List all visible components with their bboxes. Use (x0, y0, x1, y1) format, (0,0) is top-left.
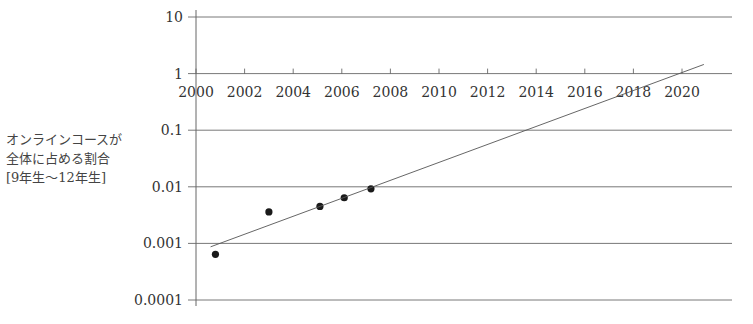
x-tick-label: 2016 (567, 84, 603, 100)
data-point (265, 208, 272, 215)
gridlines (188, 17, 732, 300)
y-axis-label-line-1: オンラインコースが (6, 130, 122, 149)
y-axis-label-line-2: 全体に占める割合 (6, 149, 122, 168)
y-tick-label: 1 (174, 66, 183, 82)
data-point (212, 251, 219, 258)
y-tick-label: 0.0001 (134, 292, 183, 308)
y-axis-label-line-3: [9年生～12年生] (6, 168, 122, 187)
x-tick-label: 2012 (470, 84, 506, 100)
y-axis-label: オンラインコースが 全体に占める割合 [9年生～12年生] (6, 130, 122, 187)
x-tick-label: 2006 (324, 84, 360, 100)
y-tick-label: 0.01 (152, 179, 183, 195)
x-tick-label: 2004 (275, 84, 311, 100)
y-axis-ticks: 1010.10.010.0010.0001 (134, 9, 183, 308)
x-tick-label: 2002 (227, 84, 263, 100)
x-tick-label: 2020 (664, 84, 700, 100)
x-tick-label: 2008 (373, 84, 409, 100)
y-tick-label: 0.001 (143, 235, 183, 251)
x-tick-label: 2014 (518, 84, 554, 100)
y-tick-label: 10 (165, 9, 183, 25)
x-tick-label: 2010 (421, 84, 457, 100)
y-tick-label: 0.1 (161, 122, 183, 138)
